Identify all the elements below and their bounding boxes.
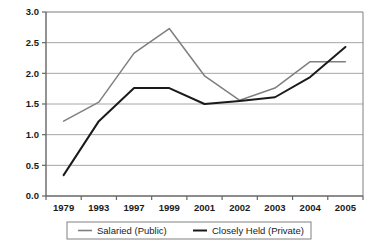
y-axis-tick-label: 2.5	[26, 37, 40, 48]
x-axis-tick-label: 2005	[335, 202, 357, 213]
x-axis-tick-label: 1979	[53, 202, 74, 213]
y-axis-tick-label: 0.0	[26, 190, 39, 201]
chart-legend: Salaried (Public)Closely Held (Private)	[67, 222, 311, 239]
y-axis-tick-label: 2.0	[26, 68, 39, 79]
chart-canvas: 0.00.51.01.52.02.53.0 197919931997199920…	[0, 0, 377, 243]
legend-label-salaried-public: Salaried (Public)	[97, 225, 167, 236]
x-axis-tick-label: 2003	[264, 202, 285, 213]
x-axis-tick-label: 1993	[88, 202, 109, 213]
y-axis-tick-label: 1.5	[26, 98, 40, 109]
x-axis-tick-label: 1999	[159, 202, 180, 213]
y-axis-tick-label: 3.0	[26, 6, 39, 17]
x-axis-tick-labels: 197919931997199920012002200320042005	[53, 202, 357, 213]
line-chart: 0.00.51.01.52.02.53.0 197919931997199920…	[0, 0, 377, 243]
x-axis-tick-label: 2001	[194, 202, 216, 213]
legend-label-closely-held-private: Closely Held (Private)	[212, 225, 304, 236]
y-axis-tick-labels: 0.00.51.01.52.02.53.0	[26, 6, 40, 201]
y-axis-tick-label: 1.0	[26, 129, 39, 140]
x-axis-tick-label: 2002	[229, 202, 250, 213]
x-axis-tick-label: 1997	[123, 202, 144, 213]
y-axis-tick-label: 0.5	[26, 160, 40, 171]
x-axis-tick-label: 2004	[300, 202, 322, 213]
